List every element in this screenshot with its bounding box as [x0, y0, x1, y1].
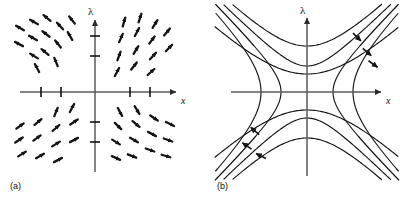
field-arrow: [54, 108, 57, 116]
field-arrow: [29, 36, 37, 41]
panel-a-svg: λ x: [0, 0, 201, 199]
field-arrow: [70, 119, 77, 124]
field-arrow: [133, 121, 140, 127]
field-arrow: [166, 122, 174, 126]
field-arrow: [150, 115, 157, 120]
field-arrow: [57, 23, 63, 30]
flow-direction-arrow: [242, 143, 251, 149]
field-arrow: [35, 119, 42, 125]
panel-b-svg: λ x: [201, 0, 402, 199]
field-arrow: [52, 142, 60, 147]
field-arrow: [130, 138, 138, 143]
panel-a-vector-field: λ x (a): [0, 0, 201, 199]
field-arrow: [70, 138, 78, 142]
field-arrow: [112, 140, 120, 145]
field-arrow: [131, 62, 137, 69]
field-arrow: [150, 53, 156, 60]
lambda-axis-label-a: λ: [88, 5, 94, 17]
field-arrow: [55, 40, 61, 47]
field-arrow: [149, 36, 154, 43]
field-arrow: [148, 69, 155, 75]
field-arrow: [16, 26, 24, 31]
field-arrow: [135, 28, 139, 36]
field-arrow: [33, 135, 40, 140]
field-arrow: [134, 46, 139, 54]
panel-b-axes: [231, 18, 381, 176]
field-arrow: [42, 49, 49, 55]
field-arrow: [135, 106, 140, 114]
field-arrow: [69, 16, 75, 23]
field-arrow: [35, 64, 39, 72]
panel-a-axes: [20, 20, 176, 172]
field-arrow: [54, 58, 57, 66]
field-arrow: [139, 14, 142, 23]
field-arrow: [54, 158, 62, 162]
field-arrow: [42, 31, 49, 37]
field-arrow: [164, 29, 170, 36]
field-arrow: [128, 154, 136, 157]
lambda-axis-label-b: λ: [300, 4, 306, 16]
flow-direction-arrow: [369, 61, 378, 67]
field-arrow: [112, 156, 120, 160]
panel-b-phase-portrait: λ x (b): [201, 0, 402, 199]
flow-direction-arrow: [353, 33, 361, 41]
field-arrow: [153, 20, 158, 28]
field-arrow: [117, 52, 120, 60]
field-arrow: [15, 42, 23, 46]
field-arrow: [36, 154, 44, 159]
figure-container: λ x (a) λ x (b): [0, 0, 402, 199]
field-arrow: [119, 34, 123, 42]
field-arrow: [15, 137, 22, 142]
x-axis-label-a: x: [180, 95, 186, 106]
field-arrow: [115, 123, 121, 129]
field-arrow: [30, 20, 38, 25]
field-arrow: [166, 45, 172, 51]
field-arrow: [118, 108, 122, 116]
field-arrow: [68, 32, 73, 40]
field-arrow: [70, 104, 74, 112]
field-arrow: [164, 138, 172, 141]
field-arrow: [44, 15, 51, 21]
field-arrow: [53, 125, 60, 131]
field-arrow: [30, 54, 38, 59]
field-arrow: [18, 152, 26, 157]
field-arrow: [115, 68, 119, 76]
panel-a-caption: (a): [10, 181, 21, 191]
field-arrow: [123, 18, 125, 27]
panel-b-flow-arrows: [242, 33, 377, 158]
x-axis-label-b: x: [385, 95, 391, 106]
panel-b-caption: (b): [217, 181, 228, 191]
field-arrow: [148, 132, 156, 136]
field-arrow: [16, 123, 23, 128]
field-arrow: [162, 155, 171, 157]
field-arrow: [146, 148, 154, 151]
